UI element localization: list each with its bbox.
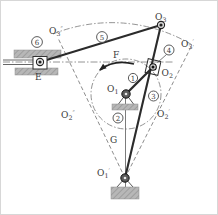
label-E: E — [35, 72, 42, 82]
joint-E — [36, 58, 43, 65]
joint-O2 — [150, 64, 157, 71]
svg-text:2: 2 — [116, 115, 120, 123]
mechanism-diagram: O3 O3′ O3″ O2 O2′ O2″ O1 O1′ E F G 1 2 3… — [0, 0, 218, 215]
link-number-1: 1 — [128, 73, 137, 82]
joint-O1 — [122, 90, 130, 98]
link-number-5: 5 — [97, 32, 108, 43]
label-O3-prime: O3′ — [181, 38, 194, 51]
svg-text:4: 4 — [167, 47, 172, 55]
svg-text:1: 1 — [131, 75, 135, 83]
link-number-6: 6 — [32, 37, 43, 48]
diagram-svg: O3 O3′ O3″ O2 O2′ O2″ O1 O1′ E F G 1 2 3… — [0, 0, 218, 215]
ground-block-O1 — [112, 104, 138, 110]
label-O1-prime: O1′ — [97, 167, 110, 180]
svg-text:3: 3 — [151, 93, 155, 101]
link-number-4: 4 — [164, 45, 174, 55]
link-number-2: 2 — [113, 113, 123, 123]
label-F: F — [113, 50, 119, 60]
svg-text:6: 6 — [35, 39, 40, 47]
svg-text:5: 5 — [100, 34, 104, 42]
label-O2-prime: O2′ — [157, 108, 170, 121]
label-G: G — [110, 135, 117, 145]
joint-O1-prime — [121, 174, 129, 182]
link-number-3: 3 — [149, 91, 159, 101]
ground-block-O1-prime — [111, 187, 139, 199]
image-border — [1, 1, 218, 215]
